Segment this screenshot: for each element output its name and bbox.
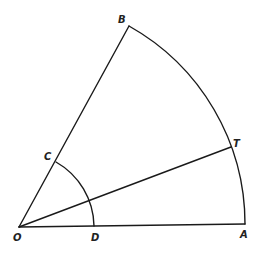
arc-DC xyxy=(56,162,94,226)
label-B: B xyxy=(118,14,126,25)
label-C: C xyxy=(44,151,52,162)
arc-AB xyxy=(129,26,245,224)
segment-OB xyxy=(19,26,129,227)
label-T: T xyxy=(233,138,241,149)
label-A: A xyxy=(239,229,248,240)
label-D: D xyxy=(91,232,99,243)
segment-OA xyxy=(19,224,245,227)
label-O: O xyxy=(13,232,22,243)
sector-diagram: O A B C D T xyxy=(0,0,261,257)
